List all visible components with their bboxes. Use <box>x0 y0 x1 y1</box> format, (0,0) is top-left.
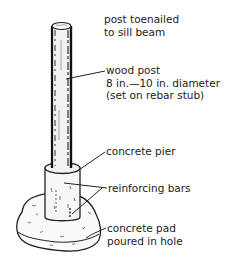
label-line: concrete pad <box>107 222 183 235</box>
label-concrete-pad: concrete pad poured in hole <box>107 222 183 247</box>
label-line: post toenailed <box>104 13 179 26</box>
wood-post <box>52 23 71 169</box>
label-concrete-pier: concrete pier <box>106 145 175 158</box>
label-line: poured in hole <box>107 235 183 248</box>
label-reinforcing-bars: reinforcing bars <box>108 182 191 195</box>
label-line: (set on rebar stub) <box>106 89 220 102</box>
label-post-toenailed: post toenailed to sill beam <box>104 13 179 38</box>
label-line: concrete pier <box>106 145 175 158</box>
label-line: to sill beam <box>104 26 179 39</box>
label-line: wood post <box>106 64 220 77</box>
label-line: reinforcing bars <box>108 182 191 195</box>
label-line: 8 in.—10 in. diameter <box>106 77 220 90</box>
label-wood-post: wood post 8 in.—10 in. diameter (set on … <box>106 64 220 102</box>
